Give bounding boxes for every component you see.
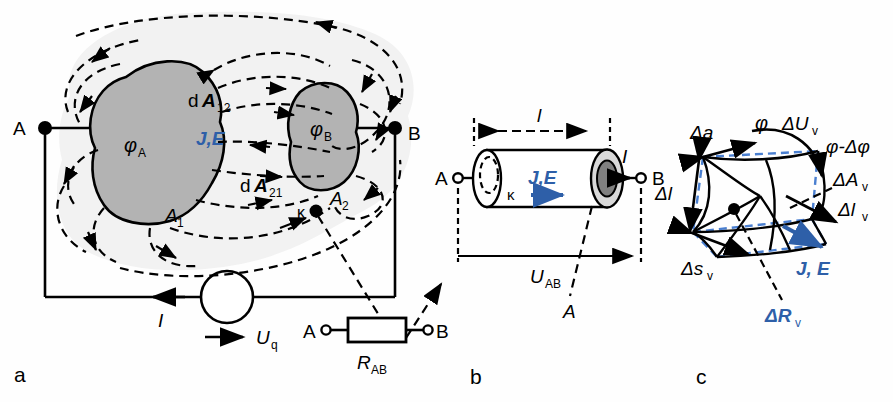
label-resistor-terminal-b: B [436,321,449,342]
da-21-vector: A [253,175,268,196]
source-voltage-symbol: U [256,327,270,348]
da-12-d: d [188,90,199,111]
label-terminal-a: A [13,118,26,139]
label-delta-length: Δl v [837,199,868,224]
delta-area-subscript: v [862,180,868,194]
panel-letter-c: c [696,365,707,388]
da-21-d: d [240,175,251,196]
delta-u-subscript: v [812,124,818,138]
label-field-a: J,E [196,128,226,149]
label-delta-u: ΔU v [781,113,818,138]
label-length: l [537,105,542,126]
delta-area-symbol: ΔA [832,169,858,190]
label-current-a: I [158,310,164,331]
resistor-symbol-label: R [357,352,371,373]
label-source-voltage: U q [256,327,278,352]
delta-s-symbol: Δs [680,258,704,279]
potential-b-symbol: φ [310,118,323,140]
label-delta-r: ΔR v [764,305,801,330]
label-kappa-a: κ [297,204,306,221]
label-da-21: d A 21 [240,175,283,200]
panel-letter-b: b [470,365,482,388]
label-phi: φ [755,112,768,134]
label-delta-area: ΔA v [832,169,868,194]
label-potential-a: φ A [124,134,146,160]
delta-r-subscript: v [795,316,801,330]
label-panel-b-terminal-a: A [435,168,448,189]
delta-length-subscript: v [862,210,868,224]
voltage-ab-subscript: AB [545,277,561,291]
label-resistor: R AB [357,352,387,377]
delta-length-symbol: Δl [837,199,856,220]
label-delta-s: Δs v [680,258,713,283]
potential-a-symbol: φ [124,134,137,156]
area-2-symbol: A [329,188,343,209]
figure-root: A B φ A φ B d A 12 d A 21 J,E A 1 A 2 κ … [0,0,893,402]
resistor-subscript: AB [371,363,387,377]
delta-s-subscript: v [707,269,713,283]
potential-b-subscript: B [324,130,332,144]
label-field-b: J,E [528,167,558,188]
label-resistor-terminal-a: A [303,321,316,342]
source-voltage-subscript: q [271,338,278,352]
label-kappa-b: κ [507,186,515,203]
label-layer: A B φ A φ B d A 12 d A 21 J,E A 1 A 2 κ … [0,0,893,402]
label-terminal-b: B [408,123,421,144]
da-12-vector: A [201,90,216,111]
area-1-symbol: A [164,205,178,226]
label-delta-a: Δa [689,122,713,143]
da-12-subscript: 12 [217,101,231,115]
label-delta-l: Δl [654,183,673,204]
potential-a-subscript: A [138,146,146,160]
label-da-12: d A 12 [188,90,231,115]
da-21-subscript: 21 [269,186,283,200]
label-field-c: J, E [796,258,831,279]
label-area-2: A 2 [329,188,349,213]
panel-letter-a: a [14,363,26,386]
label-panel-b-current: I [622,146,628,167]
area-1-subscript: 1 [177,216,184,230]
delta-u-symbol: ΔU [781,113,809,134]
area-2-subscript: 2 [342,199,349,213]
label-voltage-ab: U AB [530,266,561,291]
delta-r-symbol: ΔR [764,305,792,326]
label-potential-b: φ B [310,118,332,144]
voltage-ab-symbol: U [530,266,544,287]
label-phi-minus-delta-phi: φ-Δφ [826,136,870,157]
label-cross-section: A [562,301,576,322]
label-area-1: A 1 [164,205,184,230]
